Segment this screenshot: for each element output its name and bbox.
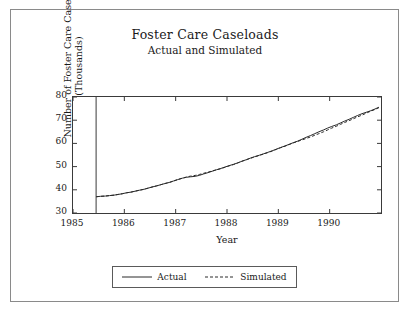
y-tick-label: 70	[45, 113, 67, 123]
y-tick-label: 30	[45, 206, 67, 216]
legend-label-simulated: Simulated	[240, 272, 286, 282]
series-line-simulated	[96, 108, 379, 197]
legend-swatch-dashed-icon	[205, 273, 235, 281]
y-tick-label: 50	[45, 160, 67, 170]
x-tick-label: 1989	[259, 218, 295, 228]
legend-item-actual: Actual	[122, 272, 186, 282]
axis-ticks	[73, 97, 381, 213]
x-tick-label: 1988	[208, 218, 244, 228]
series-line-actual	[96, 107, 379, 197]
series-canvas	[73, 97, 381, 213]
x-tick-label: 1986	[105, 218, 141, 228]
legend-item-simulated: Simulated	[205, 272, 286, 282]
legend-swatch-solid-icon	[122, 273, 152, 281]
legend-label-actual: Actual	[157, 272, 186, 282]
x-tick-label: 1990	[311, 218, 347, 228]
y-tick-label: 40	[45, 183, 67, 193]
figure-page: Foster Care Caseloads Actual and Simulat…	[0, 0, 410, 312]
x-tick-label: 1985	[54, 218, 90, 228]
plot-area	[72, 96, 382, 214]
y-tick-label: 80	[45, 90, 67, 100]
x-tick-label: 1987	[157, 218, 193, 228]
x-axis-label: Year	[72, 234, 382, 245]
y-tick-label: 60	[45, 136, 67, 146]
legend: Actual Simulated	[112, 266, 297, 288]
